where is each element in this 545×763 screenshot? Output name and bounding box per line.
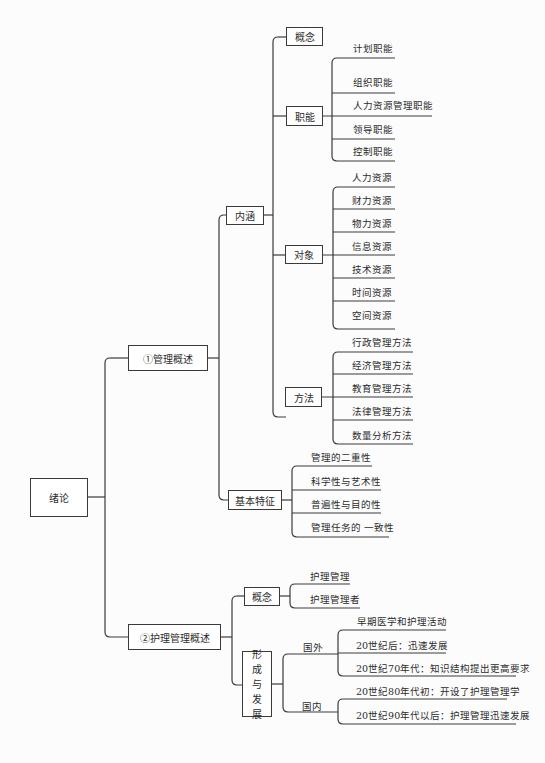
root-node[interactable]: 绪论 bbox=[30, 478, 88, 517]
formation-char: 成 bbox=[252, 662, 262, 677]
leaf-economic-method: 经济管理方法 bbox=[352, 360, 412, 372]
group-domestic: 国内 bbox=[302, 701, 322, 713]
leaf-technology-resources: 技术资源 bbox=[352, 264, 392, 276]
leaf-administrative-method: 行政管理方法 bbox=[352, 337, 412, 349]
leaf-duality: 管理的二重性 bbox=[311, 452, 371, 464]
leaf-legal-method: 法律管理方法 bbox=[352, 406, 412, 418]
leaf-information-resources: 信息资源 bbox=[352, 241, 392, 253]
node-functions[interactable]: 职能 bbox=[286, 106, 323, 126]
leaf-20th-century-rapid: 20世纪后：迅速发展 bbox=[356, 640, 448, 652]
formation-char: 形 bbox=[252, 647, 262, 662]
leaf-planning-function: 计划职能 bbox=[353, 43, 393, 55]
leaf-human-resources: 人力资源 bbox=[352, 172, 392, 184]
formation-char: 发 bbox=[252, 692, 262, 707]
node-nursing-management-overview[interactable]: ②护理管理概述 bbox=[128, 624, 221, 650]
leaf-time-resources: 时间资源 bbox=[352, 287, 392, 299]
leaf-task-consistency: 管理任务的 一致性 bbox=[311, 522, 394, 534]
leaf-financial-resources: 财力资源 bbox=[352, 195, 392, 207]
leaf-early-medicine: 早期医学和护理活动 bbox=[357, 616, 447, 628]
leaf-organizing-function: 组织职能 bbox=[353, 77, 393, 89]
leaf-1990s-rapid: 20世纪90年代以后：护理管理迅速发展 bbox=[356, 710, 530, 722]
node-basic-features[interactable]: 基本特征 bbox=[228, 490, 282, 510]
leaf-1970s-knowledge: 20世纪70年代：知识结构提出更高要求 bbox=[356, 663, 530, 675]
leaf-space-resources: 空间资源 bbox=[352, 310, 392, 322]
formation-char: 与 bbox=[252, 677, 262, 692]
leaf-material-resources: 物力资源 bbox=[352, 218, 392, 230]
leaf-science-art: 科学性与艺术性 bbox=[311, 476, 381, 488]
node-methods[interactable]: 方法 bbox=[285, 387, 322, 407]
group-abroad: 国外 bbox=[303, 642, 323, 654]
node-formation-development[interactable]: 形 成 与 发 展 bbox=[242, 651, 272, 717]
leaf-nursing-management: 护理管理 bbox=[310, 571, 350, 583]
node-objects[interactable]: 对象 bbox=[285, 245, 323, 264]
leaf-leading-function: 领导职能 bbox=[353, 124, 393, 136]
leaf-universality-purpose: 普遍性与目的性 bbox=[311, 499, 381, 511]
node-management-overview[interactable]: ①管理概述 bbox=[128, 345, 208, 371]
leaf-controlling-function: 控制职能 bbox=[353, 146, 393, 158]
connector-lines bbox=[0, 0, 545, 763]
leaf-quantitative-method: 数量分析方法 bbox=[352, 430, 412, 442]
leaf-hr-function: 人力资源管理职能 bbox=[353, 100, 433, 112]
leaf-educational-method: 教育管理方法 bbox=[352, 383, 412, 395]
leaf-nursing-manager: 护理管理者 bbox=[310, 594, 360, 606]
node-connotation[interactable]: 内涵 bbox=[226, 206, 264, 225]
node-concept[interactable]: 概念 bbox=[286, 27, 323, 46]
leaf-1980s-course: 20世纪80年代初：开设了护理管理学 bbox=[356, 686, 520, 698]
mind-map-canvas: 绪论 ①管理概述 ②护理管理概述 内涵 基本特征 概念 职能 对象 方法 计划职… bbox=[0, 0, 545, 763]
formation-char: 展 bbox=[252, 707, 262, 722]
node-nursing-concept[interactable]: 概念 bbox=[244, 587, 280, 606]
